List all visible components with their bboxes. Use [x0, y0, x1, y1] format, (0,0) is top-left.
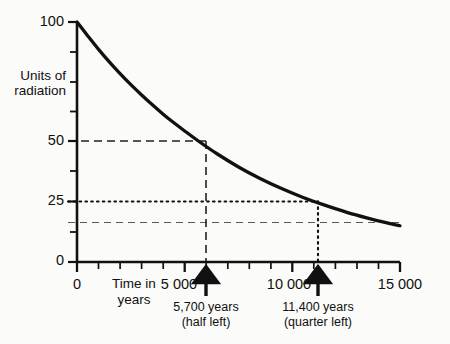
- x-axis-label-15000: 15 000: [364, 276, 436, 292]
- annotation-11400-line1: 11,400 years: [254, 300, 382, 314]
- chart-background: [0, 0, 450, 344]
- annotation-11400-line2: (quarter left): [254, 315, 382, 329]
- annotation-5700-line1: 5,700 years: [146, 300, 266, 314]
- chart-figure: 100 50 25 0 Units of radiation 0 5 000 1…: [0, 0, 450, 344]
- decay-chart-svg: [0, 0, 450, 344]
- y-axis-label-100: 100: [10, 13, 64, 29]
- x-axis-title-line1: Time in: [91, 276, 177, 291]
- y-axis-label-0: 0: [10, 252, 64, 268]
- y-axis-label-25: 25: [10, 192, 64, 208]
- x-axis-label-10000: 10 000: [253, 276, 325, 292]
- y-axis-title-line1: Units of: [0, 68, 66, 83]
- y-axis-label-50: 50: [10, 132, 64, 148]
- annotation-5700-line2: (half left): [146, 315, 266, 329]
- y-axis-title-line2: radiation: [0, 83, 66, 98]
